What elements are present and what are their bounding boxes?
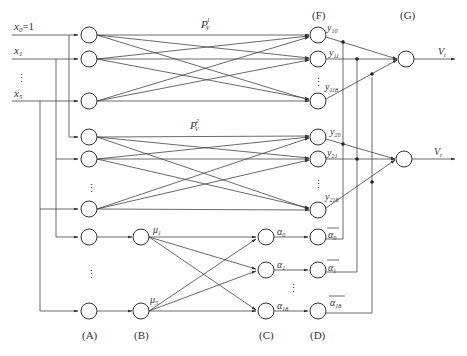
node-c-a18 [258,303,274,319]
layer-label-c: (C) [259,329,274,342]
node-f-y21 [310,151,326,167]
node-a-x5 [81,93,97,109]
input-labels: x0=1 x1 ⋮ x5 [13,20,34,101]
input-label-x5: x5 [13,87,23,101]
node-a3-x5 [81,303,97,319]
layer-label-g: (G) [400,9,416,22]
layer-label-f: (F) [312,9,326,22]
layer-label-d: (D) [310,329,326,342]
node-a2-x5 [81,201,97,217]
node-g-vt [398,51,414,67]
node-a-x0 [81,27,97,43]
label-y10: y10 [326,22,337,34]
node-f-y20 [310,129,326,145]
layer-label-b: (B) [134,329,149,342]
node-a-x1 [81,51,97,67]
node-c-a0 [258,229,274,245]
layer-f-group1-nodes: ⋮ y10 y11 y118 [310,22,339,109]
node-b-mu5 [133,303,149,319]
layer-c-ellipsis: ⋮ [288,282,299,294]
group2-connections [97,136,309,210]
node-g-vr [396,151,412,167]
node-f-y11 [310,51,326,67]
layer-f1-ellipsis: ⋮ [313,76,324,88]
layer-d-nodes: α0 α1 α18 [310,228,345,319]
layer-c-nodes: ⋮ α0 α1 α18 [258,226,299,319]
label-y20: y20 [329,126,340,138]
label-y118: y118 [324,81,338,93]
label-y21: y21 [326,147,337,159]
label-a18: α18 [277,300,288,312]
weight-label-p1: P1V [200,17,211,31]
node-a3-x1 [81,229,97,245]
label-a18bar: α18 [330,297,341,309]
layer-f-group2-nodes: ⋮ y20 y21 y218 [310,126,340,218]
label-vt: Vt [438,46,446,58]
label-mu5: μ5 [149,294,158,306]
group1-connections [97,35,309,101]
node-d-a1bar [310,262,326,278]
layer-a-ellipsis-2: ⋮ [86,268,97,280]
weight-label-p2: P2V [189,118,200,132]
layer-label-a: (A) [82,329,98,342]
layer-g-nodes: Vt Vr [396,46,455,167]
input-label-x0: x0=1 [13,20,34,34]
a-to-b-connections [97,237,132,311]
node-c-a1 [258,262,274,278]
node-d-a0bar [310,229,326,245]
label-a1: α1 [277,259,285,271]
layer-a-ellipsis-1: ⋮ [86,182,97,194]
node-b-mu1 [133,229,149,245]
layer-a-nodes: ⋮ ⋮ [81,27,97,319]
label-vr: Vr [434,146,443,158]
node-f-y218 [310,202,326,218]
layer-f2-ellipsis: ⋮ [313,178,324,190]
node-a2-x1 [81,151,97,167]
input-label-x1: x1 [13,44,22,58]
b-to-c-connections [149,237,256,311]
node-f-y10 [310,27,326,43]
input-ellipsis: ⋮ [16,72,27,84]
node-d-a18bar [310,303,326,319]
node-f-y118 [310,93,326,109]
label-y11: y11 [328,47,339,59]
label-a0: α0 [277,226,285,238]
label-mu1: μ1 [152,224,161,236]
fuzzy-neural-network-diagram: x0=1 x1 ⋮ x5 ⋮ ⋮ [0,0,467,356]
node-a2-x0 [81,129,97,145]
layer-b-nodes: μ1 μ5 [133,224,161,319]
d-to-bus-connections [326,40,372,313]
